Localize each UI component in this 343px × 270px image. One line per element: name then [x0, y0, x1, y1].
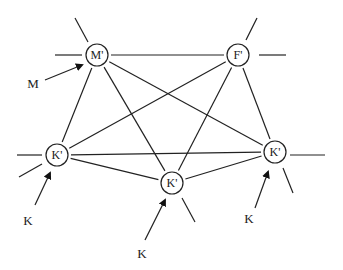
node-label: K'	[270, 145, 281, 159]
node-label: M'	[91, 48, 104, 62]
pointer-arrow	[145, 200, 165, 240]
pointer-label: K	[23, 213, 33, 228]
edge-KL-KC	[71, 158, 159, 179]
edge-M-KR	[109, 62, 262, 146]
stub-edge	[246, 18, 257, 40]
stub-edge	[19, 164, 42, 177]
pointer-label: M	[27, 76, 39, 91]
diagram-canvas: M'F'K'K'K' MKKK	[0, 0, 343, 270]
edge-KL-KR	[71, 152, 261, 155]
edge-KC-KR	[185, 156, 261, 179]
network-diagram: M'F'K'K'K' MKKK	[0, 0, 343, 270]
pointer-arrow	[45, 65, 82, 80]
pointer-label: K	[244, 211, 254, 226]
stub-edge	[182, 198, 195, 222]
pointer-arrow	[255, 172, 268, 208]
pointer-label: K	[137, 246, 147, 261]
stub-edge	[75, 18, 88, 42]
node-label: F'	[234, 48, 243, 62]
edge-F-KR	[243, 68, 270, 139]
node-label: K'	[167, 176, 178, 190]
edge-F-KL	[69, 62, 225, 148]
edge-M-KL	[62, 68, 92, 142]
node-label: K'	[52, 148, 63, 162]
pointer-arrow	[35, 173, 50, 205]
stub-edge	[283, 168, 293, 193]
edge-M-KC	[104, 67, 165, 171]
